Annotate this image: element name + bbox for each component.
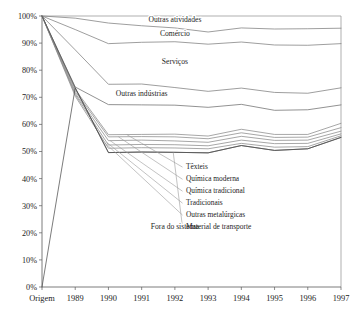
series-inline-label: Serviços	[162, 57, 188, 66]
x-tick-label: 1992	[167, 294, 184, 303]
y-tick-label: 20%	[22, 229, 37, 238]
chart-background	[0, 0, 357, 313]
y-tick-label: 40%	[22, 175, 37, 184]
y-tick-label: 50%	[22, 147, 37, 156]
sector-share-line-chart: 0%10%20%30%40%50%60%70%80%90%100% Origem…	[0, 0, 357, 313]
x-tick-label: 1993	[200, 294, 217, 303]
y-tick-label: 10%	[22, 256, 37, 265]
x-tick-label: 1996	[299, 294, 316, 303]
series-callout-label: Material de transporte	[186, 222, 252, 231]
x-tick-label: 1989	[67, 294, 84, 303]
x-tick-label: 1994	[233, 294, 251, 303]
y-tick-label: 90%	[22, 39, 37, 48]
x-tick-label: 1990	[100, 294, 117, 303]
y-tick-label: 30%	[22, 202, 37, 211]
y-tick-label: 80%	[22, 66, 37, 75]
series-inline-label: Comércio	[160, 29, 190, 38]
series-callout-label: Tradicionais	[186, 198, 223, 207]
series-inline-label: Outras atividades	[148, 15, 201, 24]
y-tick-label: 0%	[26, 283, 37, 292]
series-callout-label: Química moderna	[186, 174, 240, 183]
y-tick-label: 100%	[18, 12, 37, 21]
chart-container: 0%10%20%30%40%50%60%70%80%90%100% Origem…	[0, 0, 357, 313]
x-tick-label: 1991	[133, 294, 150, 303]
x-tick-label: Origem	[29, 294, 55, 303]
series-callout-label: Têxteis	[186, 162, 208, 171]
x-tick-label: 1995	[266, 294, 283, 303]
x-tick-label: 1997	[333, 294, 350, 303]
series-inline-label: Outras indústrias	[116, 89, 168, 98]
y-tick-label: 70%	[22, 93, 37, 102]
series-callout-label: Outras metalúrgicas	[186, 210, 245, 219]
series-callout-label: Química tradicional	[186, 186, 245, 195]
y-tick-label: 60%	[22, 120, 37, 129]
